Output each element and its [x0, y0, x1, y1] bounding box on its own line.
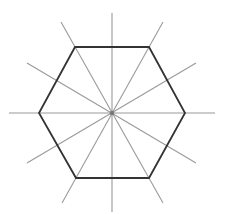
hexagon-diagram — [0, 0, 228, 214]
center-point — [110, 111, 114, 115]
